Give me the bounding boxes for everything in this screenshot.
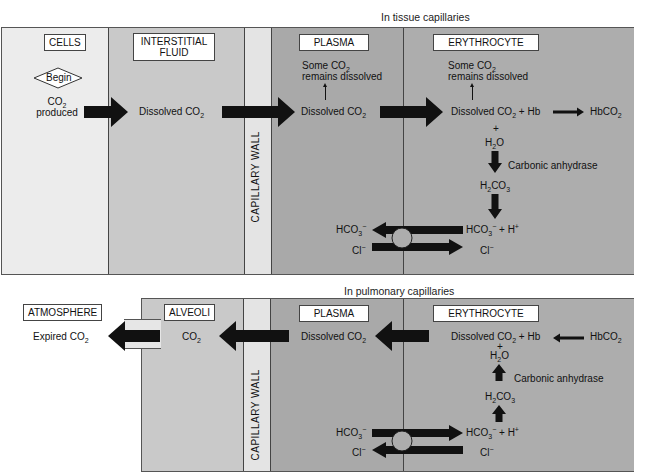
arrow-erythrocyte-to-plasma (375, 321, 430, 351)
carbonic-anhydrase: Carbonic anhydrase (514, 373, 604, 384)
erythrocyte-label: ERYTHROCYTE (433, 34, 539, 51)
subscript: 2 (362, 112, 366, 119)
text: O (501, 350, 509, 361)
text: remains dissolved (302, 71, 382, 82)
subscript: 3 (488, 230, 492, 237)
arrow-plasma-to-erythrocyte (380, 97, 444, 127)
subscript: 3 (358, 433, 362, 440)
text: O (496, 137, 504, 148)
text: + Hb (516, 331, 540, 342)
text: CO (182, 331, 197, 342)
interstitial-dissolved-co2: Dissolved CO2 (139, 106, 204, 117)
text: Dissolved CO (451, 106, 512, 117)
tissue-caption: In tissue capillaries (381, 11, 470, 23)
chloride-shift-exchanger (372, 421, 464, 461)
text: HCO (466, 427, 488, 438)
divider (244, 28, 245, 274)
text: Dissolved CO (301, 331, 362, 342)
subscript: 2 (618, 337, 622, 344)
plasma-dissolved-co2: Dissolved CO2 (301, 331, 366, 342)
hco3-plus-h-erythrocyte: HCO3− + H+ (466, 427, 519, 438)
arrow-down-icon (488, 194, 502, 219)
alveoli-co2: CO2 (182, 331, 201, 342)
expired-co2: Expired CO2 (33, 331, 89, 342)
divider (108, 28, 109, 274)
subscript: 2 (197, 337, 201, 344)
arrow-interstitial-to-plasma (222, 97, 296, 127)
text: + H (496, 427, 515, 438)
subscript: 3 (511, 397, 515, 404)
interstitial-label-line1: INTERSTITIAL (138, 36, 210, 47)
text: Some CO (302, 60, 346, 71)
superscript: + (515, 426, 519, 433)
text: CO (491, 180, 506, 191)
text: remains dissolved (448, 71, 528, 82)
text: Some CO (448, 60, 492, 71)
arrow-left-thin-icon (553, 333, 585, 343)
erythrocyte-reaction: Dissolved CO2 + Hb (451, 106, 540, 117)
hco3-plus-h-erythrocyte: HCO3− + H+ (466, 224, 519, 235)
cells-column (2, 28, 108, 274)
text: Dissolved CO (301, 106, 362, 117)
carbonic-anhydrase: Carbonic anhydrase (508, 160, 598, 171)
co2-produced: CO2 produced (22, 96, 92, 118)
text: HbCO (590, 106, 618, 117)
hbco2: HbCO2 (590, 331, 622, 342)
arrow-right-thin-icon (553, 107, 585, 117)
begin-label: Begin (46, 72, 72, 83)
plasma-dissolved-co2: Dissolved CO2 (301, 106, 366, 117)
h2o: H2O (490, 350, 509, 361)
subscript: 3 (358, 230, 362, 237)
plasma-some-co2: Some CO2 remains dissolved (302, 60, 382, 82)
h2co3: H2CO3 (485, 391, 515, 402)
subscript: 2 (362, 337, 366, 344)
cl-erythrocyte: Cl− (480, 245, 494, 256)
pulmonary-caption: In pulmonary capillaries (344, 285, 454, 297)
text: + H (496, 224, 515, 235)
capillary-wall-label: CAPILLARY WALL (250, 371, 261, 461)
hco3-plasma: HCO3− (336, 427, 366, 438)
arrow-up-thin-icon (325, 86, 326, 100)
hco3-plasma: HCO3− (336, 224, 366, 235)
hbco2: HbCO2 (590, 106, 622, 117)
text: HCO (466, 224, 488, 235)
subscript: 3 (488, 433, 492, 440)
erythrocyte-reaction: Dissolved CO2 + Hb (451, 331, 540, 342)
subscript: 3 (506, 186, 510, 193)
text: HCO (336, 224, 358, 235)
interstitial-label-line2: FLUID (138, 47, 210, 58)
text: Expired CO (33, 331, 85, 342)
interstitial-fluid-label: INTERSTITIAL FLUID (133, 33, 215, 61)
text: HbCO (590, 331, 618, 342)
cells-label: CELLS (44, 34, 86, 51)
superscript: − (489, 244, 493, 251)
cl-erythrocyte: Cl− (480, 447, 494, 458)
arrow-plasma-to-alveoli (219, 321, 290, 351)
text: + Hb (516, 106, 540, 117)
superscript: − (362, 223, 366, 230)
superscript: − (362, 426, 366, 433)
interstitial-column (108, 28, 244, 274)
erythrocyte-some-co2: Some CO2 remains dissolved (448, 60, 528, 82)
produced-text: produced (22, 107, 92, 118)
text: Dissolved CO (139, 106, 200, 117)
subscript: 2 (85, 337, 89, 344)
arrow-cells-to-interstitial (84, 97, 129, 127)
superscript: − (489, 446, 493, 453)
arrow-up-thin-icon (472, 86, 473, 100)
subscript: 2 (200, 112, 204, 119)
plasma-label: PLASMA (299, 34, 369, 51)
co2-text: CO (48, 96, 63, 107)
atmosphere-label: ATMOSPHERE (23, 304, 102, 321)
text: HCO (336, 427, 358, 438)
erythrocyte-label: ERYTHROCYTE (433, 305, 539, 322)
alveoli-label: ALVEOLI (164, 304, 215, 321)
h2o: H2O (485, 137, 504, 148)
capillary-wall-label: CAPILLARY WALL (250, 133, 261, 223)
subscript: 2 (618, 112, 622, 119)
chloride-shift-exchanger (372, 218, 464, 258)
h2co3: H2CO3 (480, 180, 510, 191)
arrow-alveoli-to-atmosphere (108, 321, 161, 351)
plus-sign: + (493, 123, 499, 134)
arrow-up-icon (492, 364, 506, 381)
